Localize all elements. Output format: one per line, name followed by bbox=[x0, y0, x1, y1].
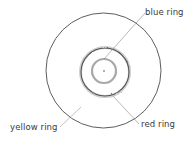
red-ring bbox=[81, 48, 129, 96]
red-ring-label: red ring bbox=[141, 119, 175, 129]
red-leader-line bbox=[113, 96, 139, 124]
blue-leader-line bbox=[104, 13, 145, 59]
center-dot bbox=[103, 70, 105, 72]
yellow-leader-line bbox=[60, 107, 81, 127]
yellow-ring-label: yellow ring bbox=[10, 122, 58, 132]
blue-ring-label: blue ring bbox=[145, 7, 184, 17]
